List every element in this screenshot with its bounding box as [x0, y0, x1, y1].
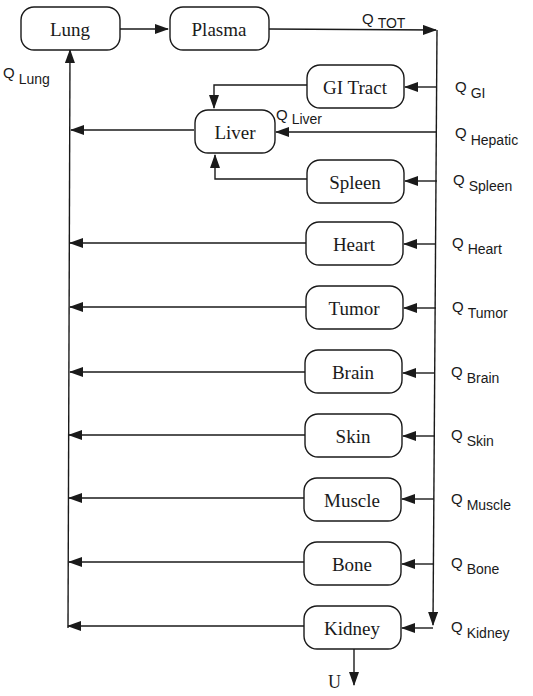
- pbpk-diagram: Lung Plasma GI Tract Liver Spleen Heart …: [0, 0, 533, 696]
- flow-gi-to-liver: [214, 85, 308, 108]
- label-q-gi: QGI: [455, 78, 485, 101]
- node-kidney-label: Kidney: [324, 618, 380, 639]
- node-skin: Skin: [305, 414, 402, 457]
- node-plasma-label: Plasma: [192, 19, 247, 40]
- node-kidney: Kidney: [304, 606, 401, 649]
- node-plasma: Plasma: [170, 7, 269, 50]
- flow-plasma-out: [269, 29, 436, 30]
- label-q-skin: QSkin: [451, 426, 494, 449]
- label-q-tot: QTOT: [362, 10, 406, 31]
- label-q-lung: QLung: [3, 64, 50, 87]
- node-brain: Brain: [305, 350, 402, 393]
- node-bone: Bone: [304, 542, 401, 585]
- label-q-tumor: QTumor: [452, 298, 508, 321]
- node-muscle-label: Muscle: [324, 490, 380, 511]
- node-gi-tract-label: GI Tract: [323, 77, 388, 98]
- label-q-hepatic: QHepatic: [455, 124, 518, 148]
- node-lung-label: Lung: [50, 19, 91, 40]
- flow-spleen-to-liver: [215, 155, 308, 179]
- node-liver: Liver: [195, 110, 275, 153]
- node-lung: Lung: [21, 7, 120, 50]
- node-spleen-label: Spleen: [329, 172, 381, 193]
- label-q-heart: QHeart: [452, 234, 502, 257]
- venous-trunk: [68, 50, 70, 628]
- node-brain-label: Brain: [332, 362, 375, 383]
- label-q-brain: QBrain: [451, 363, 499, 386]
- node-liver-label: Liver: [214, 122, 256, 143]
- node-spleen: Spleen: [307, 160, 404, 203]
- node-heart-label: Heart: [333, 234, 376, 255]
- node-skin-label: Skin: [336, 426, 371, 447]
- label-urine: U: [328, 672, 341, 692]
- node-tumor: Tumor: [306, 286, 403, 329]
- node-heart: Heart: [306, 222, 403, 265]
- node-muscle: Muscle: [304, 478, 401, 521]
- label-q-liver: QLiver: [276, 106, 322, 127]
- arterial-trunk: [433, 30, 437, 625]
- label-q-spleen: QSpleen: [453, 171, 512, 194]
- node-bone-label: Bone: [332, 554, 372, 575]
- node-gi-tract: GI Tract: [307, 65, 404, 108]
- label-q-muscle: QMuscle: [451, 490, 511, 513]
- node-tumor-label: Tumor: [328, 298, 380, 319]
- label-q-kidney: QKidney: [451, 618, 509, 641]
- label-q-bone: QBone: [451, 554, 500, 577]
